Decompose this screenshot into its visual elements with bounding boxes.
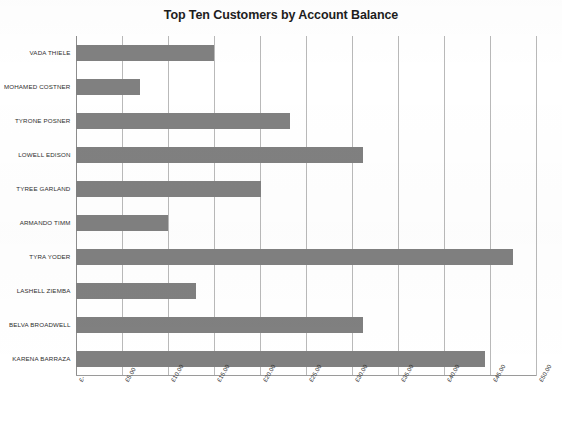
bar xyxy=(76,181,262,197)
bar xyxy=(76,147,363,163)
y-axis-label: TYREE GARLAND xyxy=(0,185,71,192)
y-axis-label: BELVA BROADWELL xyxy=(0,321,71,328)
y-axis-label: LOWELL EDISON xyxy=(0,151,71,158)
bar xyxy=(76,249,513,265)
y-axis-label: TYRA YODER xyxy=(0,253,71,260)
plot-area xyxy=(76,36,536,376)
bar xyxy=(76,45,215,61)
bar-row xyxy=(76,70,536,104)
chart-title: Top Ten Customers by Account Balance xyxy=(0,8,562,22)
y-axis-label: MOHAMED COSTNER xyxy=(0,83,71,90)
y-axis-label: TYRONE POSNER xyxy=(0,117,71,124)
bar xyxy=(76,215,169,231)
y-axis-label: KARENA BARRAZA xyxy=(0,355,71,362)
bar xyxy=(76,113,290,129)
bar-row xyxy=(76,308,536,342)
y-axis-label: LASHELL ZIEMBA xyxy=(0,287,71,294)
x-axis-line xyxy=(76,375,536,376)
bar-row xyxy=(76,342,536,376)
bar-row xyxy=(76,274,536,308)
bar xyxy=(76,283,197,299)
y-axis-label: VADA THIELE xyxy=(0,49,71,56)
y-axis-label: ARMANDO TIMM xyxy=(0,219,71,226)
bar xyxy=(76,317,363,333)
bar xyxy=(76,79,140,95)
x-axis-tick-label: £- xyxy=(78,375,86,383)
bar-row xyxy=(76,172,536,206)
gridline xyxy=(536,36,537,376)
bar xyxy=(76,351,485,367)
bar-row xyxy=(76,138,536,172)
bar-row xyxy=(76,206,536,240)
bar-row xyxy=(76,240,536,274)
bar-chart: Top Ten Customers by Account Balance VAD… xyxy=(0,0,562,424)
x-axis-tick-label: £50.00 xyxy=(538,364,553,383)
bar-row xyxy=(76,104,536,138)
bar-row xyxy=(76,36,536,70)
